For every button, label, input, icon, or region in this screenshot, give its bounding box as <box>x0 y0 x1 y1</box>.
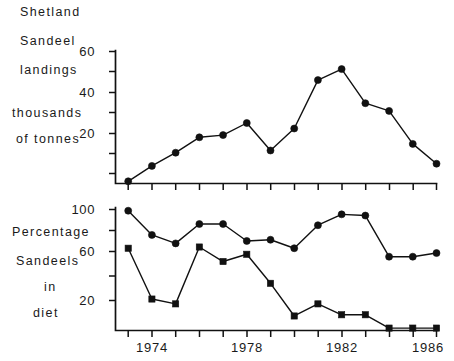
top-x-ticks <box>128 184 436 191</box>
diet-upper-point <box>243 237 250 244</box>
diet-upper-point <box>148 231 155 238</box>
bottom-panel-diet: Percentage Sandeels in diet 100 60 20 <box>12 202 444 355</box>
diet-upper-point <box>267 236 274 243</box>
landings-point <box>243 120 250 127</box>
top-y-ticks <box>109 52 116 174</box>
landings-point <box>433 160 440 167</box>
diet-lower-point <box>410 325 416 331</box>
diet-upper-point <box>172 240 179 247</box>
diet-lower-point <box>220 258 226 264</box>
bottom-y-tick-100: 100 <box>72 202 96 217</box>
caption-line-thousands: thousands <box>12 106 82 120</box>
top-y-tick-20: 20 <box>79 126 95 141</box>
bottom-y-ticks <box>109 210 116 301</box>
diet-upper-point <box>362 212 369 219</box>
diet-lower-point <box>267 280 273 286</box>
bottom-axis-spine <box>116 208 437 331</box>
top-y-tick-40: 40 <box>79 85 95 100</box>
xtick-label-1974: 1974 <box>136 340 168 355</box>
diet-upper-point <box>196 221 203 228</box>
landings-point <box>220 132 227 139</box>
dual-line-chart-figure: Shetland Sandeel landings thousands of t… <box>0 0 454 361</box>
diet-lower-point <box>433 325 439 331</box>
xtick-label-1982: 1982 <box>326 340 358 355</box>
diet-lower-point <box>125 245 131 251</box>
top-y-tick-60: 60 <box>79 44 95 59</box>
caption-line-in: in <box>44 280 57 294</box>
diet-lower-point <box>362 312 368 318</box>
diet-lower-point <box>291 313 297 319</box>
top-panel-landings: Shetland Sandeel landings thousands of t… <box>12 5 440 190</box>
caption-line-sandeel: Sandeel <box>20 34 76 48</box>
diet-lower-point <box>315 301 321 307</box>
caption-line-diet: diet <box>33 306 59 320</box>
caption-line-of-tonnes: of tonnes <box>16 132 80 146</box>
landings-point <box>338 66 345 73</box>
landings-point <box>267 147 274 154</box>
landings-point <box>409 140 416 147</box>
bottom-upper-series-polyline <box>128 211 436 257</box>
landings-point <box>196 134 203 141</box>
top-panel-caption: Shetland Sandeel landings thousands of t… <box>12 5 82 146</box>
diet-upper-point <box>291 245 298 252</box>
bottom-x-tick-labels: 1974 1978 1982 1986 <box>136 340 444 355</box>
diet-upper-point <box>125 207 132 214</box>
diet-upper-point <box>386 253 393 260</box>
diet-upper-point <box>338 211 345 218</box>
diet-upper-point <box>314 222 321 229</box>
bottom-y-tick-20: 20 <box>79 293 95 308</box>
caption-line-shetland: Shetland <box>20 5 81 19</box>
xtick-label-1986: 1986 <box>412 340 444 355</box>
diet-lower-point <box>196 244 202 250</box>
top-series-polyline <box>128 69 436 181</box>
diet-upper-point <box>433 250 440 257</box>
diet-lower-point <box>339 312 345 318</box>
top-series-markers <box>125 66 440 185</box>
figure-root: Shetland Sandeel landings thousands of t… <box>0 0 454 361</box>
bottom-panel-caption: Percentage Sandeels in diet <box>12 225 90 320</box>
bottom-upper-series-markers <box>125 207 440 260</box>
diet-lower-point <box>149 296 155 302</box>
bottom-y-tick-60: 60 <box>79 244 95 259</box>
diet-lower-point <box>386 325 392 331</box>
landings-point <box>291 125 298 132</box>
landings-point <box>314 77 321 84</box>
top-panel-y-tick-labels: 60 40 20 <box>79 44 95 141</box>
caption-line-sandeels: Sandeels <box>16 254 79 268</box>
landings-point <box>172 149 179 156</box>
caption-line-percentage: Percentage <box>12 225 90 239</box>
diet-upper-point <box>409 253 416 260</box>
diet-lower-point <box>173 301 179 307</box>
landings-point <box>362 100 369 107</box>
xtick-label-1978: 1978 <box>231 340 263 355</box>
landings-point <box>125 178 132 185</box>
caption-line-landings: landings <box>20 63 78 77</box>
landings-point <box>386 107 393 114</box>
top-axis-spine <box>116 51 437 184</box>
landings-point <box>148 162 155 169</box>
diet-lower-point <box>244 251 250 257</box>
diet-upper-point <box>220 221 227 228</box>
